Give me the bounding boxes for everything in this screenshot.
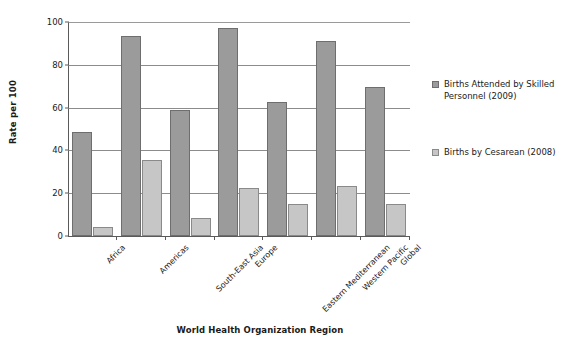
bar bbox=[386, 204, 406, 236]
bar-group bbox=[117, 22, 166, 236]
bar bbox=[93, 227, 113, 236]
x-tick-mark bbox=[214, 236, 215, 240]
bar bbox=[72, 132, 92, 236]
y-tick-label: 80 bbox=[52, 60, 63, 70]
legend-label: Births Attended by Skilled Personnel (20… bbox=[444, 79, 568, 102]
x-tick-mark bbox=[116, 236, 117, 240]
y-tick-label: 20 bbox=[52, 188, 63, 198]
bar bbox=[365, 87, 385, 236]
bar bbox=[239, 188, 259, 236]
x-category-label: Americas bbox=[158, 243, 191, 276]
y-axis-title: Rate per 100 bbox=[8, 67, 18, 157]
bar-group bbox=[68, 22, 117, 236]
y-tick-label: 0 bbox=[58, 231, 63, 241]
bar-group bbox=[215, 22, 264, 236]
bar-group bbox=[361, 22, 410, 236]
legend-entry: Births Attended by Skilled Personnel (20… bbox=[432, 79, 568, 102]
bar bbox=[218, 28, 238, 236]
bar bbox=[267, 102, 287, 236]
plot-area: 020406080100 bbox=[68, 22, 410, 237]
x-category-label: South-East Asia bbox=[214, 243, 265, 294]
bar bbox=[170, 110, 190, 236]
legend-label: Births by Cesarean (2008) bbox=[444, 147, 556, 159]
bar-group bbox=[312, 22, 361, 236]
bar bbox=[316, 41, 336, 236]
bar bbox=[121, 36, 141, 236]
x-tick-mark bbox=[311, 236, 312, 240]
y-tick-label: 40 bbox=[52, 145, 63, 155]
bar-group bbox=[166, 22, 215, 236]
bar bbox=[191, 218, 211, 236]
x-axis-title: World Health Organization Region bbox=[0, 325, 520, 335]
legend-swatch-icon bbox=[432, 149, 439, 156]
x-axis-line bbox=[68, 236, 410, 237]
x-tick-mark bbox=[262, 236, 263, 240]
x-tick-mark bbox=[409, 236, 410, 240]
y-tick-label: 60 bbox=[52, 103, 63, 113]
bar bbox=[337, 186, 357, 236]
y-tick-label: 100 bbox=[47, 17, 63, 27]
x-tick-mark bbox=[360, 236, 361, 240]
bar-group bbox=[263, 22, 312, 236]
bar bbox=[142, 160, 162, 236]
legend-swatch-icon bbox=[432, 81, 439, 88]
legend-entry: Births by Cesarean (2008) bbox=[432, 147, 556, 159]
x-tick-mark bbox=[165, 236, 166, 240]
bar-chart-figure: Rate per 100 020406080100 AfricaAmericas… bbox=[0, 0, 578, 351]
x-category-label: Africa bbox=[105, 243, 128, 266]
bar bbox=[288, 204, 308, 236]
